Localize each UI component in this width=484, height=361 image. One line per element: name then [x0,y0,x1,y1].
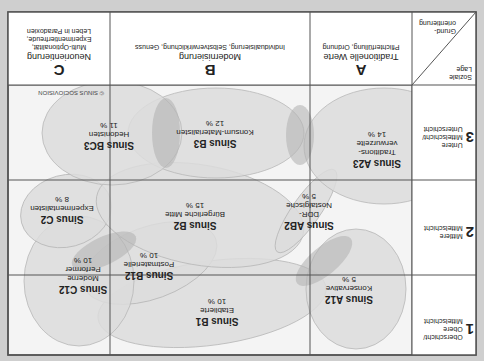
milieu-bc3: Sinus BC3 Hedonisten 11 % [74,121,144,151]
milieu-b2: Sinus B2 Bürgerliche Mitte 15 % [150,201,240,231]
milieu-a23: Sinus A23 Traditions-verwurzelte 14 % [342,130,412,169]
milieu-c12: Sinus C12 Moderne Performer 10 % [58,256,108,295]
row-3-number: 3 [466,128,474,145]
sinus-milieu-diagram: Soziale Lage Grund-orientierung 1 Obersc… [0,0,484,361]
row-2-label: 2 Mittlere Mittelschicht [412,224,474,241]
row-2-number: 2 [466,224,474,241]
milieu-a12: Sinus A12 Konservative 5 % [314,275,384,305]
milieu-b12: Sinus B12 Postmaterielle 10 % [114,251,184,281]
corner-bottom-label: Grund-orientierung [412,19,456,35]
corner-top-label: Soziale Lage [432,65,472,81]
milieu-b1: Sinus B1 Etablierte 10 % [182,297,252,327]
column-c-letter: C [8,62,110,79]
copyright: © SINUS SOCIOVISION [10,89,104,96]
column-b-header: B Modernisierung Individualisierung, Sel… [110,43,310,79]
column-b-letter: B [110,62,310,79]
row-3-label: 3 Untere Mittelschicht/ Unterschicht [412,125,474,149]
milieu-b3: Sinus B3 Konsum-Materialisten 12 % [170,119,260,149]
row-label-background [412,12,476,355]
column-a-letter: A [310,62,412,79]
milieu-c2: Sinus C2 Experimentalisten 8 % [22,195,102,225]
row-1-label: 1 Oberschicht/ Obere Mittelschicht [412,317,474,341]
row-1-number: 1 [466,320,474,337]
milieu-ab2: Sinus AB2 DDR-Nostalgische 5 % [284,192,334,231]
column-a-header: A Traditionelle Werte Pflichterfüllung, … [310,43,412,79]
column-c-header: C Neuorientierung Multi-Optionalität, Ex… [8,27,110,79]
